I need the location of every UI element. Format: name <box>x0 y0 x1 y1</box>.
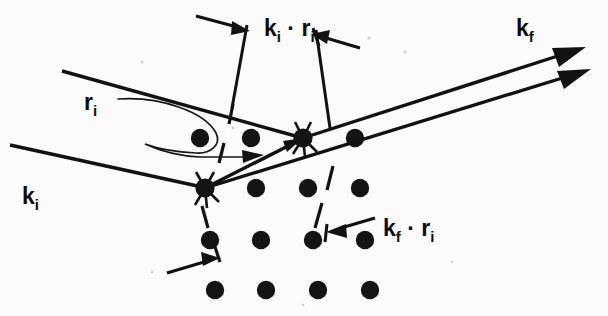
label-r-i: ri <box>84 89 97 119</box>
ki-ri-arrow-right-shaft <box>326 38 360 48</box>
lattice-dot <box>206 281 224 299</box>
outgoing-ray-upper-arrowhead <box>552 47 586 67</box>
middle-lattice-plane <box>315 203 322 228</box>
ki-ri-leader-left <box>232 25 247 108</box>
outgoing-ray-lower-arrowhead <box>557 69 591 89</box>
scattering-center-dot <box>195 178 214 197</box>
ri-leader-curve <box>118 99 246 157</box>
middle-lattice-plane <box>327 166 333 190</box>
kf-ri-arrowhead <box>326 224 347 238</box>
scattering-diagram: ki kf ri ki · ri kf · ri <box>0 0 608 316</box>
lower-path-difference-group <box>167 252 220 273</box>
label-k-i: ki <box>22 183 39 213</box>
lattice-dot <box>304 231 322 249</box>
lower-scattering-center <box>195 172 219 208</box>
lattice-dot <box>247 179 265 197</box>
scattering-center-dot <box>293 128 312 147</box>
lattice-dot <box>252 231 270 249</box>
label-ki-dot-ri: ki · ri <box>264 15 315 45</box>
outgoing-ray-group <box>205 47 591 188</box>
label-kf-dot-ri: kf · ri <box>383 215 434 245</box>
lattice-dot <box>257 281 275 299</box>
lower-lattice-plane <box>202 206 208 228</box>
outgoing-ray-upper <box>303 53 567 138</box>
ki-ri-arrow-left-shaft <box>196 16 237 27</box>
kf-ri-tick <box>325 224 327 242</box>
incoming-ray-upper <box>62 71 299 137</box>
upper-scattering-center <box>293 122 317 157</box>
lattice-dot <box>351 179 369 197</box>
lattice-dot-grid <box>191 129 379 299</box>
upper-lattice-plane <box>219 143 224 163</box>
lattice-dot <box>361 281 379 299</box>
incoming-ray-group <box>10 71 299 187</box>
label-k-f: kf <box>516 15 535 45</box>
outgoing-ray-lower <box>205 75 572 188</box>
diagram-canvas: ki kf ri ki · ri kf · ri <box>0 0 608 316</box>
lower-arrow-shaft <box>167 262 204 273</box>
lattice-dot <box>191 129 209 147</box>
lattice-dot <box>356 231 374 249</box>
lattice-dot <box>299 179 317 197</box>
lattice-dot <box>309 281 327 299</box>
lattice-dot <box>242 129 260 147</box>
